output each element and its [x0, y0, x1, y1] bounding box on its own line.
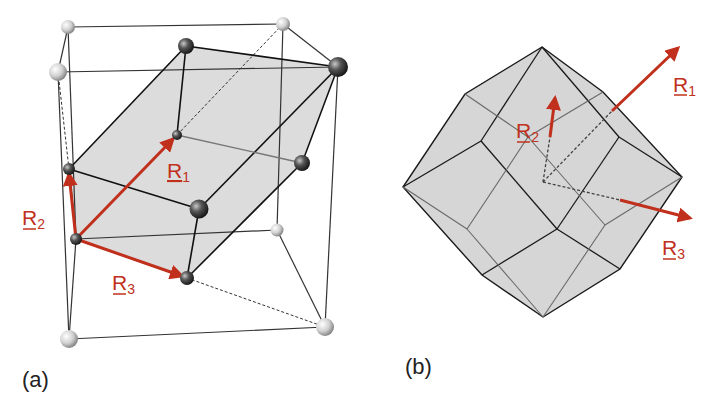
panel-label-a: (a): [22, 367, 49, 392]
vector-r1-arrow-b: [612, 48, 678, 111]
label-r2-a: R2: [22, 206, 45, 232]
panel-b: R1 R2 R3 (b): [403, 47, 696, 379]
label-r3-b: R3: [662, 236, 685, 262]
figure-canvas: R1 R2 R3 (a): [0, 0, 715, 401]
panel-a: R1 R2 R3 (a): [22, 17, 348, 392]
dodecahedron-body: [403, 47, 682, 317]
panel-label-b: (b): [405, 354, 432, 379]
label-r3-a: R3: [112, 271, 135, 297]
